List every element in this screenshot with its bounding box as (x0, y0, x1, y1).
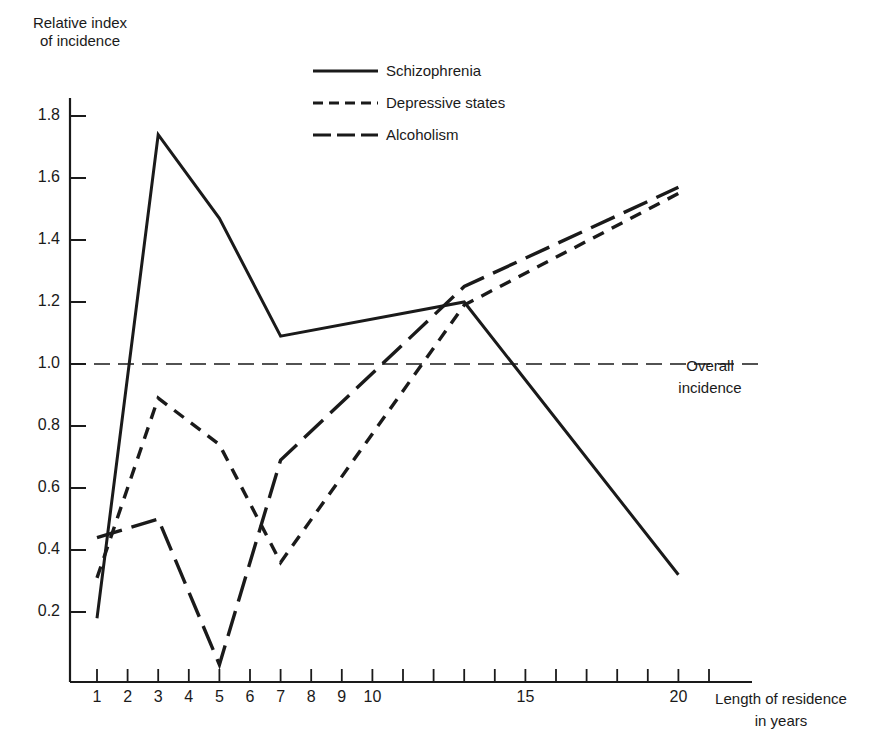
depressive-states-line (97, 194, 678, 578)
x-tick-label: 5 (204, 688, 234, 706)
x-axis-title-line2: in years (688, 710, 874, 732)
y-axis-title-line2: of incidence (18, 32, 142, 50)
overall-label-line1: Overall (660, 355, 760, 377)
legend-label-depressive-states: Depressive states (386, 94, 505, 111)
y-axis-title: Relative index of incidence (18, 14, 142, 50)
x-tick-label: 2 (113, 688, 143, 706)
y-tick-label: 1.4 (20, 230, 60, 248)
y-tick-label: 0.8 (20, 416, 60, 434)
y-tick-label: 0.2 (20, 602, 60, 620)
y-tick-label: 0.4 (20, 540, 60, 558)
legend-label-schizophrenia: Schizophrenia (386, 62, 481, 79)
y-tick-label: 1.0 (20, 354, 60, 372)
x-tick-label: 8 (296, 688, 326, 706)
x-tick-label: 9 (327, 688, 357, 706)
line-chart: Relative index of incidence 0.20.40.60.8… (0, 0, 888, 754)
y-tick-label: 0.6 (20, 478, 60, 496)
y-tick-label: 1.6 (20, 168, 60, 186)
x-axis-title: Length of residence in years (688, 688, 874, 732)
y-tick-label: 1.2 (20, 292, 60, 310)
x-tick-label: 1 (82, 688, 112, 706)
schizophrenia-line (97, 135, 678, 619)
alcoholism-line (97, 187, 678, 664)
x-tick-label: 10 (357, 688, 387, 706)
x-tick-label: 7 (266, 688, 296, 706)
x-tick-label: 6 (235, 688, 265, 706)
overall-incidence-label: Overall incidence (660, 355, 760, 399)
y-tick-label: 1.8 (20, 106, 60, 124)
x-tick-label: 15 (510, 688, 540, 706)
x-tick-label: 3 (143, 688, 173, 706)
x-axis-title-line1: Length of residence (688, 688, 874, 710)
legend-label-alcoholism: Alcoholism (386, 126, 459, 143)
overall-label-line2: incidence (660, 377, 760, 399)
x-tick-label: 4 (174, 688, 204, 706)
y-axis-title-line1: Relative index (18, 14, 142, 32)
